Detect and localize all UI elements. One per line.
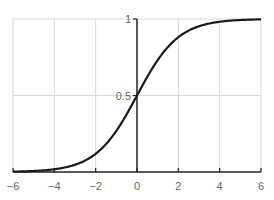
x-tick-label: 6: [258, 180, 264, 192]
x-tick-label: −6: [7, 180, 20, 192]
y-tick-labels: 0.51: [116, 13, 131, 102]
sigmoid-chart: −6−4−20246 0.51: [0, 0, 274, 200]
x-tick-label: 0: [134, 180, 140, 192]
x-tick-labels: −6−4−20246: [7, 180, 264, 192]
y-tick-label: 0.5: [116, 90, 131, 102]
x-tick-label: −4: [48, 180, 61, 192]
x-tick-label: 4: [217, 180, 223, 192]
x-tick-label: 2: [175, 180, 181, 192]
y-tick-label: 1: [125, 13, 131, 25]
x-tick-label: −2: [89, 180, 102, 192]
